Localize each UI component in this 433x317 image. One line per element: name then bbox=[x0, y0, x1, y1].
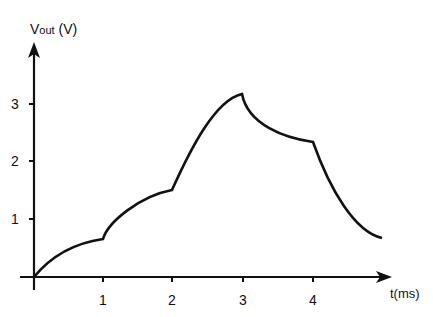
vout-curve bbox=[34, 94, 382, 277]
y-tick-label-3: 3 bbox=[11, 97, 19, 111]
x-tick-label-1: 1 bbox=[99, 293, 107, 307]
y-axis-label: Vout (V) bbox=[30, 22, 77, 36]
chart-canvas bbox=[0, 0, 433, 317]
x-tick-label-2: 2 bbox=[168, 293, 176, 307]
x-tick-label-4: 4 bbox=[309, 293, 317, 307]
y-tick-label-1: 1 bbox=[11, 212, 19, 226]
x-axis-label: t(ms) bbox=[390, 287, 420, 300]
y-tick-label-2: 2 bbox=[11, 154, 19, 168]
x-tick-label-3: 3 bbox=[239, 293, 247, 307]
